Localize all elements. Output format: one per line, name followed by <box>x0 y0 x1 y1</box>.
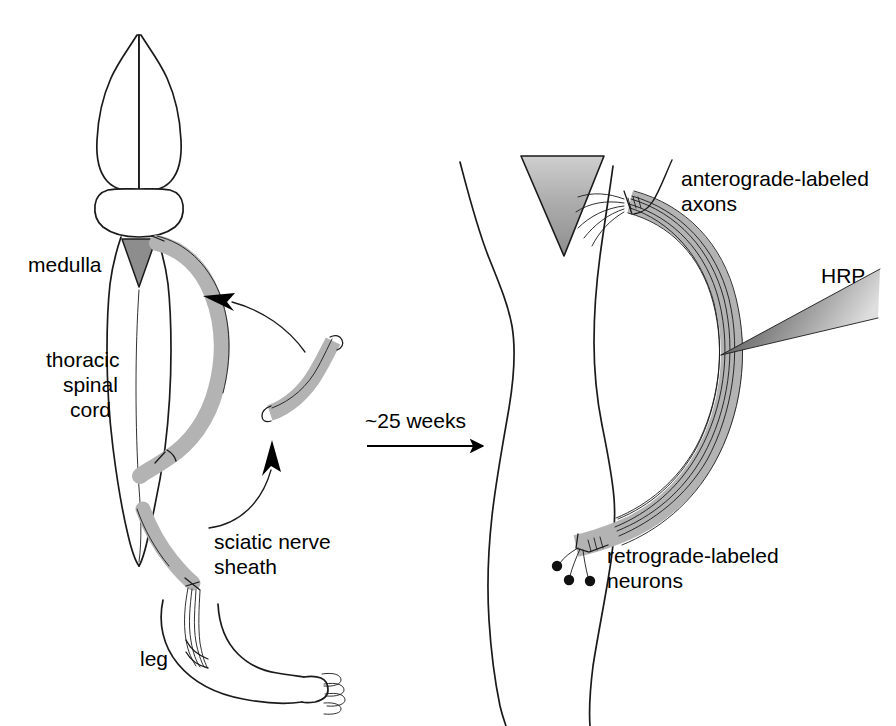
label-hrp: HRP <box>821 264 865 287</box>
left-panel-group: medulla thoracic spinal cord sciatic ner… <box>28 35 345 714</box>
figure-root: medulla thoracic spinal cord sciatic ner… <box>0 0 896 726</box>
spinal-cord-left-edge <box>107 237 139 566</box>
brain-hemispheres-outline-right <box>139 35 181 191</box>
time-arrow-group: ~25 weeks <box>365 409 483 446</box>
label-retrograde-line1: retrograde-labeled <box>607 544 779 567</box>
toes-group <box>322 673 345 714</box>
diagram-canvas: medulla thoracic spinal cord sciatic ner… <box>0 0 896 726</box>
graft-tube-detail <box>576 202 732 546</box>
leg-outline-anterior <box>218 604 304 677</box>
leg-outline-posterior <box>161 600 302 703</box>
label-medulla: medulla <box>28 253 102 276</box>
medulla-wedge-detail <box>521 156 604 256</box>
label-thoracic-line3: cord <box>70 398 111 421</box>
implant-arrow-curve <box>232 302 305 352</box>
cerebellum-outline <box>95 189 183 237</box>
host-cord-right-contour <box>590 166 615 726</box>
nerve-fascicle-bundle <box>185 588 208 668</box>
label-duration: ~25 weeks <box>365 409 466 432</box>
nerve-sheath-graft-left <box>140 243 222 476</box>
label-anterograde-line1: anterograde-labeled <box>681 167 869 190</box>
retrograde-neuron-soma-1 <box>552 561 562 571</box>
label-anterograde-line2: axons <box>681 192 737 215</box>
label-retrograde-line2: neurons <box>607 569 683 592</box>
sciatic-nerve-sheath-donor <box>143 509 193 583</box>
label-sciatic-line1: sciatic nerve <box>214 530 331 553</box>
right-panel-group: anterograde-labeled axons HRP retrograde… <box>460 156 880 726</box>
label-leg: leg <box>140 647 168 670</box>
label-thoracic-line1: thoracic <box>46 348 120 371</box>
isolated-nerve-graft-segment <box>270 341 333 413</box>
harvest-arrow-curve <box>209 470 271 528</box>
brain-hemispheres-outline <box>97 35 139 191</box>
retrograde-neuron-soma-3 <box>585 576 595 586</box>
retrograde-neuron-soma-2 <box>564 575 574 585</box>
label-sciatic-line2: sheath <box>214 555 277 578</box>
label-thoracic-line2: spinal <box>63 373 118 396</box>
host-cord-left-contour <box>460 162 514 726</box>
foot-outline <box>302 676 328 702</box>
